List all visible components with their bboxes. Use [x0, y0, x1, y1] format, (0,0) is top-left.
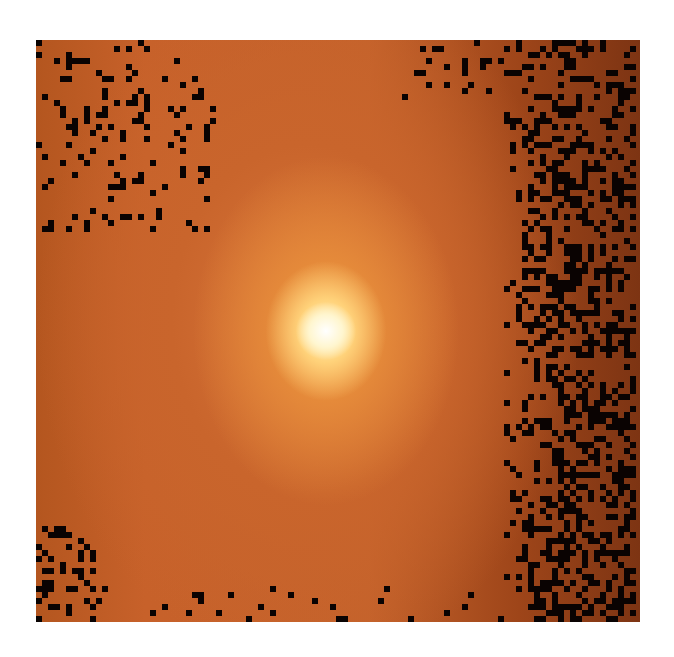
galaxy-image	[36, 40, 640, 622]
noise-pixels	[36, 40, 640, 622]
